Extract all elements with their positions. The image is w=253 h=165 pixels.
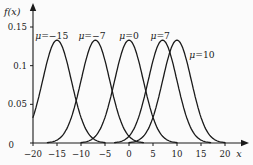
normal-distributions-chart: −20−15−10−50510152000.050.10.15μ=−15μ=−7… — [0, 0, 253, 165]
x-tick-label: 20 — [220, 149, 231, 159]
curve-mu-minus-15 — [33, 40, 105, 142]
x-tick-label: 0 — [126, 149, 131, 159]
x-tick-label: −20 — [24, 149, 42, 159]
figure: −20−15−10−50510152000.050.10.15μ=−15μ=−7… — [0, 0, 253, 165]
x-tick-label: 5 — [150, 149, 155, 159]
y-tick-label: 0.1 — [13, 61, 27, 71]
x-tick-label: −15 — [48, 149, 66, 159]
curve-label-mu-minus-7: μ=−7 — [78, 30, 105, 41]
y-tick-label: 0.15 — [8, 22, 27, 32]
curve-mu-minus-7 — [47, 40, 143, 142]
y-axis-title: f(x) — [3, 6, 21, 17]
axes — [33, 9, 244, 143]
y-axis-arrow-icon — [30, 3, 36, 11]
curve-label-mu-0: μ=0 — [119, 30, 139, 41]
y-tick-label: 0.05 — [8, 99, 27, 109]
x-axis-arrow-icon — [241, 140, 249, 146]
x-tick-label: 15 — [196, 149, 207, 159]
x-tick-label: 10 — [172, 149, 183, 159]
curve-mu-0 — [81, 40, 177, 142]
x-tick-label: −10 — [72, 149, 90, 159]
curve-label-mu-7: μ=7 — [150, 30, 170, 41]
x-axis-title: x — [236, 148, 242, 159]
curve-label-mu-minus-15: μ=−15 — [35, 30, 68, 41]
y-tick-label: 0 — [9, 140, 14, 150]
x-tick-label: −5 — [99, 149, 112, 159]
curve-label-mu-10: μ=10 — [189, 49, 215, 60]
